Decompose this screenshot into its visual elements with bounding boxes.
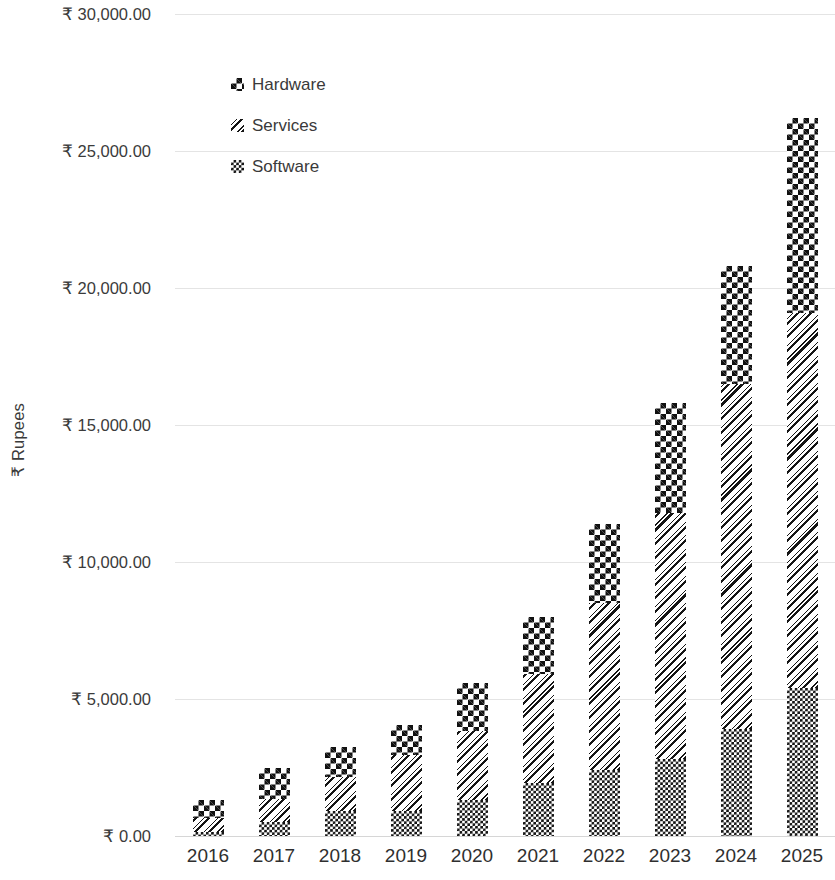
y-axis-tick-label: ₹ 25,000.00 bbox=[0, 142, 163, 161]
bar-stack[interactable] bbox=[589, 524, 620, 836]
bar-segment-services[interactable] bbox=[787, 313, 818, 688]
bar-stack[interactable] bbox=[721, 266, 752, 836]
y-axis-tick-label: ₹ 10,000.00 bbox=[0, 553, 163, 572]
bar-segment-hardware[interactable] bbox=[391, 725, 422, 755]
bar-stack[interactable] bbox=[325, 747, 356, 836]
bar-stack[interactable] bbox=[655, 403, 686, 836]
x-axis-tick-label: 2021 bbox=[506, 845, 570, 867]
legend-item-software[interactable]: Software bbox=[231, 146, 421, 187]
bar-segment-software[interactable] bbox=[457, 800, 488, 836]
bar-segment-hardware[interactable] bbox=[193, 800, 224, 818]
bar-segment-software[interactable] bbox=[259, 822, 290, 836]
x-axis-tick-label: 2019 bbox=[374, 845, 438, 867]
bar-stack[interactable] bbox=[457, 683, 488, 836]
y-axis-title: ₹ Rupees bbox=[0, 0, 36, 880]
bar-stack[interactable] bbox=[391, 725, 422, 836]
bar-segment-services[interactable] bbox=[589, 603, 620, 770]
y-axis-tick-label: ₹ 30,000.00 bbox=[0, 5, 163, 24]
bar-segment-services[interactable] bbox=[259, 799, 290, 822]
x-axis-tick-label: 2020 bbox=[440, 845, 504, 867]
y-axis-tick-label: ₹ 20,000.00 bbox=[0, 279, 163, 298]
x-axis-tick-label: 2023 bbox=[638, 845, 702, 867]
bar-segment-services[interactable] bbox=[325, 777, 356, 811]
bar-segment-hardware[interactable] bbox=[259, 768, 290, 800]
bar-segment-software[interactable] bbox=[787, 688, 818, 836]
legend-swatch-hardware-icon bbox=[231, 78, 244, 91]
bar-segment-software[interactable] bbox=[721, 729, 752, 836]
bar-segment-services[interactable] bbox=[721, 384, 752, 729]
bar-stack[interactable] bbox=[193, 800, 224, 836]
legend-item-services[interactable]: Services bbox=[231, 105, 421, 146]
x-axis-tick-label: 2022 bbox=[572, 845, 636, 867]
y-axis-tick-label: ₹ 15,000.00 bbox=[0, 416, 163, 435]
bar-segment-services[interactable] bbox=[655, 513, 686, 760]
x-axis-tick-label: 2025 bbox=[770, 845, 834, 867]
legend-swatch-services-icon bbox=[231, 119, 244, 132]
bar-segment-hardware[interactable] bbox=[589, 524, 620, 603]
legend-label: Hardware bbox=[252, 75, 326, 95]
x-axis-tick-label: 2024 bbox=[704, 845, 768, 867]
gridline bbox=[175, 14, 835, 15]
bar-stack[interactable] bbox=[787, 118, 818, 836]
bar-segment-hardware[interactable] bbox=[655, 403, 686, 513]
bar-segment-software[interactable] bbox=[589, 770, 620, 836]
bar-segment-services[interactable] bbox=[391, 755, 422, 811]
bar-stack[interactable] bbox=[523, 617, 554, 836]
bar-segment-software[interactable] bbox=[655, 759, 686, 836]
bar-segment-hardware[interactable] bbox=[457, 683, 488, 731]
bar-segment-hardware[interactable] bbox=[787, 118, 818, 313]
bar-segment-services[interactable] bbox=[523, 674, 554, 782]
y-axis-title-label: ₹ Rupees bbox=[9, 403, 28, 477]
stacked-bar-chart: ₹ Rupees ₹ 0.00₹ 5,000.00₹ 10,000.00₹ 15… bbox=[0, 0, 835, 880]
x-axis-tick-label: 2017 bbox=[242, 845, 306, 867]
bar-segment-hardware[interactable] bbox=[523, 617, 554, 675]
bar-segment-software[interactable] bbox=[523, 783, 554, 836]
chart-legend: HardwareServicesSoftware bbox=[231, 64, 421, 187]
legend-label: Services bbox=[252, 116, 317, 136]
y-axis-tick-label: ₹ 0.00 bbox=[0, 827, 163, 846]
gridline bbox=[175, 836, 835, 837]
x-axis-tick-label: 2018 bbox=[308, 845, 372, 867]
bar-segment-software[interactable] bbox=[325, 811, 356, 836]
bar-segment-software[interactable] bbox=[391, 811, 422, 836]
legend-item-hardware[interactable]: Hardware bbox=[231, 64, 421, 105]
bar-segment-software[interactable] bbox=[193, 832, 224, 836]
y-axis-tick-label: ₹ 5,000.00 bbox=[0, 690, 163, 709]
bar-segment-hardware[interactable] bbox=[325, 747, 356, 777]
x-axis-tick-label: 2016 bbox=[176, 845, 240, 867]
bar-segment-services[interactable] bbox=[457, 731, 488, 801]
legend-label: Software bbox=[252, 157, 319, 177]
legend-swatch-software-icon bbox=[231, 160, 244, 173]
bar-segment-hardware[interactable] bbox=[721, 266, 752, 384]
bar-segment-services[interactable] bbox=[193, 818, 224, 832]
bar-stack[interactable] bbox=[259, 768, 290, 837]
